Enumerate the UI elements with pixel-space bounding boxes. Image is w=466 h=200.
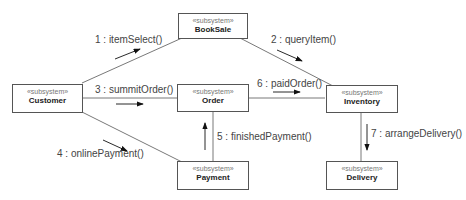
node-name: Delivery xyxy=(327,173,397,183)
message-label-2: 2 : queryItem() xyxy=(271,34,336,45)
node-customer[interactable]: «subsystem» Customer xyxy=(12,84,83,113)
node-name: Order xyxy=(178,96,248,106)
node-inventory[interactable]: «subsystem» Inventory xyxy=(326,85,398,113)
stereotype-label: «subsystem» xyxy=(327,89,397,97)
message-label-4: 4 : onlinePayment() xyxy=(57,148,144,159)
node-order[interactable]: «subsystem» Order xyxy=(177,84,249,112)
node-name: Inventory xyxy=(327,97,397,107)
stereotype-label: «subsystem» xyxy=(178,88,248,96)
stereotype-label: «subsystem» xyxy=(327,165,397,173)
stereotype-label: «subsystem» xyxy=(13,88,82,96)
message-label-1: 1 : itemSelect() xyxy=(95,34,162,45)
node-name: BookSale xyxy=(179,25,247,35)
message-label-6: 6 : paidOrder() xyxy=(257,78,322,89)
node-name: Customer xyxy=(13,96,82,106)
node-booksale[interactable]: «subsystem» BookSale xyxy=(178,13,248,39)
node-payment[interactable]: «subsystem» Payment xyxy=(177,161,249,190)
message-label-3: 3 : summitOrder() xyxy=(95,84,173,95)
node-name: Payment xyxy=(178,173,248,183)
stereotype-label: «subsystem» xyxy=(178,165,248,173)
arrow-msg-1 xyxy=(115,49,140,59)
message-label-7: 7 : arrangeDelivery() xyxy=(371,128,462,139)
message-label-5: 5 : finishedPayment() xyxy=(217,131,312,142)
node-delivery[interactable]: «subsystem» Delivery xyxy=(326,161,398,190)
stereotype-label: «subsystem» xyxy=(179,17,247,25)
